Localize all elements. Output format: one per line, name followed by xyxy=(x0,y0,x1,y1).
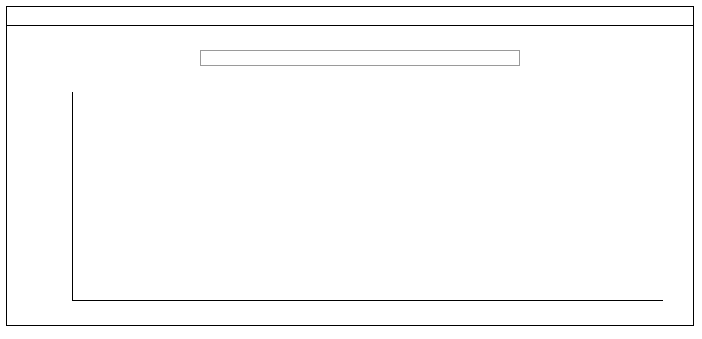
plot-area xyxy=(72,92,662,300)
chart-legend xyxy=(200,50,520,66)
x-axis-line xyxy=(72,300,663,301)
chart-page xyxy=(0,0,702,339)
title-divider xyxy=(6,25,694,26)
